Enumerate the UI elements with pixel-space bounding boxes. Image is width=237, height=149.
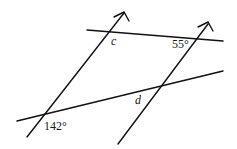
bottom-transversal: [17, 71, 223, 121]
angle-55-label: 55°: [172, 37, 189, 51]
parallel-lines-diagram: c 55° d 142°: [0, 0, 237, 149]
angle-d-label: d: [135, 93, 142, 107]
angle-142-label: 142°: [44, 119, 67, 133]
right-parallel-line: [118, 24, 208, 144]
angle-c-label: c: [111, 34, 117, 48]
